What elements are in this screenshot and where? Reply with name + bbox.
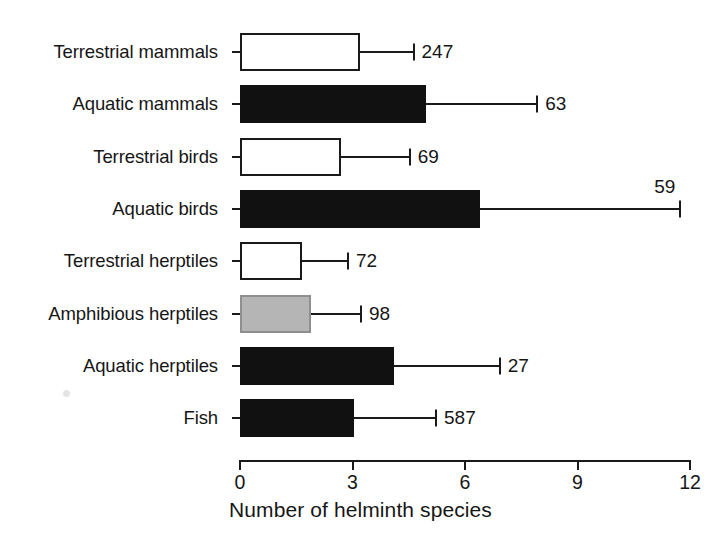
category-label: Aquatic mammals bbox=[72, 93, 218, 115]
bar bbox=[240, 190, 480, 228]
error-bar-line bbox=[394, 365, 499, 367]
x-tick-label: 3 bbox=[347, 471, 358, 494]
x-tick bbox=[352, 460, 354, 470]
bar bbox=[240, 242, 302, 280]
error-bar-cap bbox=[409, 148, 411, 165]
x-tick-label: 12 bbox=[679, 471, 701, 494]
error-bar-line bbox=[426, 103, 537, 105]
x-tick-label: 6 bbox=[460, 471, 471, 494]
bar bbox=[240, 347, 394, 385]
category-label: Terrestrial birds bbox=[93, 146, 218, 168]
sample-size-label: 59 bbox=[654, 176, 675, 198]
error-bar-line bbox=[311, 313, 360, 315]
error-bar-cap bbox=[536, 96, 538, 113]
error-bar-line bbox=[302, 260, 347, 262]
bar bbox=[240, 85, 426, 123]
sample-size-label: 72 bbox=[356, 250, 377, 272]
category-label: Aquatic birds bbox=[112, 198, 218, 220]
bar bbox=[240, 295, 311, 333]
x-tick bbox=[239, 460, 241, 470]
error-bar-cap bbox=[360, 305, 362, 322]
category-label: Amphibious herptiles bbox=[48, 303, 218, 325]
sample-size-label: 247 bbox=[422, 41, 454, 63]
category-label: Aquatic herptiles bbox=[83, 355, 218, 377]
error-bar-cap bbox=[679, 200, 681, 217]
sample-size-label: 587 bbox=[444, 407, 476, 429]
error-bar-line bbox=[360, 51, 413, 53]
x-tick-label: 0 bbox=[235, 471, 246, 494]
sample-size-label: 27 bbox=[508, 355, 529, 377]
x-tick bbox=[464, 460, 466, 470]
x-tick bbox=[577, 460, 579, 470]
page-speck bbox=[63, 390, 70, 397]
sample-size-label: 63 bbox=[545, 93, 566, 115]
bar bbox=[240, 138, 341, 176]
error-bar-cap bbox=[413, 44, 415, 61]
error-bar-cap bbox=[435, 410, 437, 427]
bar-chart: Terrestrial mammalsAquatic mammalsTerres… bbox=[0, 0, 721, 548]
x-tick-label: 9 bbox=[572, 471, 583, 494]
x-tick bbox=[689, 460, 691, 470]
x-axis-title: Number of helminth species bbox=[0, 498, 721, 522]
error-bar-line bbox=[480, 208, 679, 210]
error-bar-cap bbox=[347, 253, 349, 270]
error-bar-line bbox=[341, 156, 409, 158]
bar bbox=[240, 399, 354, 437]
category-label: Fish bbox=[183, 407, 218, 429]
bar bbox=[240, 33, 360, 71]
category-label: Terrestrial herptiles bbox=[64, 250, 218, 272]
error-bar-cap bbox=[499, 357, 501, 374]
sample-size-label: 69 bbox=[418, 146, 439, 168]
category-label: Terrestrial mammals bbox=[53, 41, 218, 63]
error-bar-line bbox=[354, 417, 435, 419]
sample-size-label: 98 bbox=[369, 303, 390, 325]
